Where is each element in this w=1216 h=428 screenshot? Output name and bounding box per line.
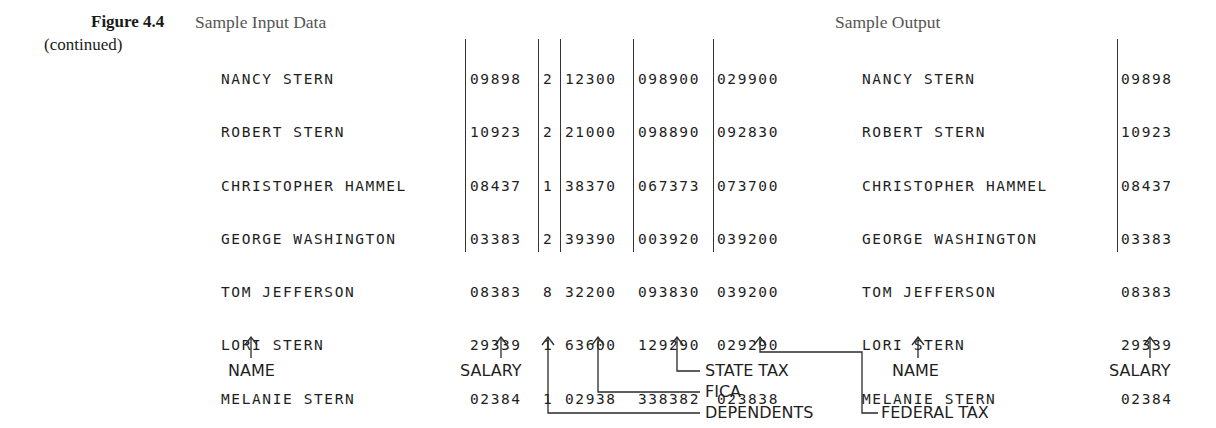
arrow-up-icon bbox=[495, 337, 507, 358]
callout-arrows bbox=[0, 0, 1216, 428]
arrow-up-icon bbox=[592, 337, 700, 392]
dependents-label: DEPENDENTS bbox=[705, 403, 813, 422]
federal-tax-label: FEDERAL TAX bbox=[881, 403, 989, 422]
arrow-up-icon bbox=[671, 337, 700, 371]
arrow-up-icon bbox=[912, 337, 924, 358]
arrow-up-icon bbox=[1144, 337, 1156, 358]
arrow-up-icon bbox=[542, 337, 700, 413]
input-salary-label: SALARY bbox=[460, 361, 522, 380]
output-name-label: NAME bbox=[892, 361, 939, 380]
output-salary-label: SALARY bbox=[1109, 361, 1171, 380]
state-tax-label: STATE TAX bbox=[705, 361, 789, 380]
fica-label: FICA bbox=[705, 382, 741, 401]
arrow-up-icon bbox=[245, 337, 257, 358]
input-name-label: NAME bbox=[228, 361, 275, 380]
